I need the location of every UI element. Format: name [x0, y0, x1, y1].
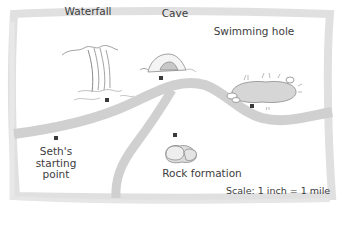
- cave-icon: [140, 54, 196, 72]
- rock-icon: [166, 145, 197, 162]
- rock-formation-marker: [173, 133, 177, 137]
- rock-formation-label: Rock formation: [162, 168, 241, 180]
- waterfall-marker: [105, 98, 109, 102]
- cave-label: Cave: [162, 8, 188, 20]
- swimming-hole-marker: [250, 104, 254, 108]
- waterfall-icon: [62, 45, 134, 100]
- swimming-hole-label: Swimming hole: [214, 26, 295, 38]
- starting-point-line-3: point: [36, 169, 77, 181]
- map: Waterfall Cave Swimming hole Seth's star…: [0, 0, 344, 225]
- cave-marker: [159, 76, 163, 80]
- scale-label: Scale: 1 inch = 1 mile: [226, 186, 330, 196]
- starting-point-label: Seth's starting point: [36, 146, 77, 181]
- starting-point-marker: [54, 136, 58, 140]
- waterfall-label: Waterfall: [64, 6, 111, 18]
- starting-point-line-1: Seth's: [36, 146, 77, 158]
